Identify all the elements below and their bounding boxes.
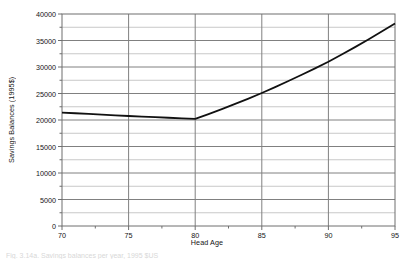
x-tick-label: 85 xyxy=(258,231,266,240)
y-tick-label: 15000 xyxy=(20,142,56,151)
data-series-line xyxy=(62,24,395,119)
y-tick-label: 10000 xyxy=(20,169,56,178)
y-tick-label: 40000 xyxy=(20,10,56,19)
y-tick-label: 30000 xyxy=(20,63,56,72)
y-tick-label: 20000 xyxy=(20,116,56,125)
chart-figure: Savings Balances (1995$) Head Age 050001… xyxy=(0,0,414,265)
x-axis-ticks xyxy=(62,226,395,230)
y-tick-label: 35000 xyxy=(20,36,56,45)
grid-major-lines xyxy=(62,14,395,226)
y-axis-ticks xyxy=(58,14,62,226)
y-axis-title: Savings Balances (1995$) xyxy=(2,0,20,240)
x-tick-label: 80 xyxy=(191,231,199,240)
y-tick-label: 0 xyxy=(20,222,56,231)
y-tick-label: 25000 xyxy=(20,89,56,98)
chart-plot-svg xyxy=(0,0,414,265)
x-tick-label: 90 xyxy=(324,231,332,240)
x-tick-label: 95 xyxy=(391,231,399,240)
y-tick-label: 5000 xyxy=(20,195,56,204)
x-tick-label: 75 xyxy=(125,231,133,240)
x-tick-label: 70 xyxy=(58,231,66,240)
figure-caption: Fig. 3.14a. Savings balances per year, 1… xyxy=(6,252,406,259)
